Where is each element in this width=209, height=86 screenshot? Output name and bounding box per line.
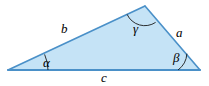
side-label-b: b <box>61 22 68 35</box>
angle-label-gamma: γ <box>133 22 138 35</box>
triangle-shape <box>8 6 200 70</box>
angle-label-alpha: α <box>43 56 50 69</box>
side-label-c: c <box>101 71 107 84</box>
angle-label-beta: β <box>173 51 179 64</box>
triangle-figure: b a c α β γ <box>0 0 209 86</box>
side-label-a: a <box>176 26 183 39</box>
